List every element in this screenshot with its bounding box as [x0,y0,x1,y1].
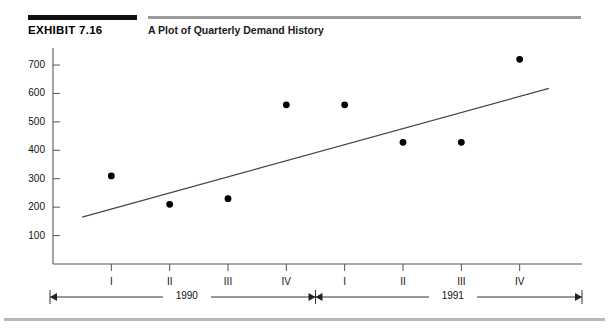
y-axis-tick-label: 400 [11,144,45,155]
data-point [458,139,465,146]
footer-rule [4,318,605,321]
x-axis-tick-label: IV [505,276,535,287]
x-axis-tick-label: III [446,276,476,287]
x-axis-tick-label: IV [271,276,301,287]
x-axis-tick-label: II [155,276,185,287]
data-points-layer [108,56,523,208]
x-axis-tick-label: III [213,276,243,287]
data-point [108,172,115,179]
year-bracket-layer [50,290,582,304]
trend-line-layer [82,88,549,217]
y-axis-tick-label: 300 [11,173,45,184]
data-point [341,101,348,108]
data-point [225,195,232,202]
year-bracket-1990-arrow-right [309,293,316,301]
x-axis-tick-label: I [330,276,360,287]
year-label-1991: 1991 [429,290,477,301]
year-bracket-1991-arrow-left [316,293,323,301]
year-bracket-1990-arrow-left [50,293,57,301]
x-axis-tick-label: I [96,276,126,287]
data-point [166,201,173,208]
x-axis-tick-label: II [388,276,418,287]
y-axis-tick-label: 100 [11,230,45,241]
y-axis-tick-label: 700 [11,59,45,70]
year-label-1990: 1990 [163,290,211,301]
exhibit-figure: EXHIBIT 7.16 A Plot of Quarterly Demand … [0,0,609,330]
data-point [400,139,407,146]
y-axis-tick-label: 200 [11,201,45,212]
data-point [516,56,523,63]
trend-line [82,88,549,217]
axis-layer [53,48,582,271]
y-axis-tick-label: 600 [11,87,45,98]
y-axis-tick-label: 500 [11,116,45,127]
data-point [283,101,290,108]
year-bracket-1991-arrow-right [575,293,582,301]
